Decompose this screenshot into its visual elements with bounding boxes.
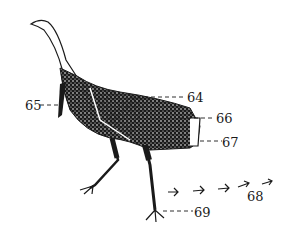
label-67: 67 — [222, 136, 239, 149]
label-64: 64 — [187, 91, 204, 104]
tail-strap — [190, 118, 200, 146]
bird-drawing — [0, 0, 294, 240]
label-66: 66 — [216, 112, 233, 125]
left-foot — [80, 186, 93, 194]
right-foot — [146, 210, 164, 222]
neck — [31, 20, 77, 77]
bird-illustration: 64 65 66 67 68 69 — [0, 0, 294, 240]
label-68: 68 — [247, 190, 264, 203]
label-69: 69 — [194, 206, 211, 219]
label-65: 65 — [25, 99, 42, 112]
front-strap — [58, 82, 66, 118]
